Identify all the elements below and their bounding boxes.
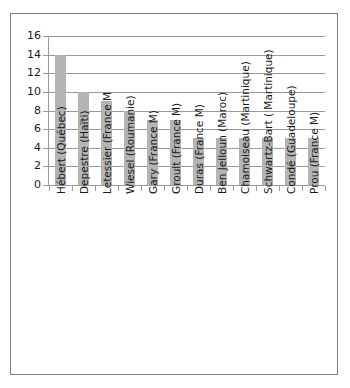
x-axis-tick bbox=[164, 186, 165, 191]
bar-chart-plot-area: 0246810121416Hébert (Québec)Depestre (Ha… bbox=[11, 14, 337, 374]
x-axis-tick bbox=[118, 186, 119, 191]
y-gridline bbox=[49, 55, 325, 56]
x-axis-tick-label: Prou (France M) bbox=[308, 112, 319, 194]
x-axis-tick-label: Letessier (France M bbox=[101, 92, 112, 194]
x-axis-tick bbox=[49, 186, 50, 191]
y-axis-tick-label: 16 bbox=[1, 30, 41, 41]
y-axis-tick-label: 10 bbox=[1, 86, 41, 97]
x-axis-tick bbox=[95, 186, 96, 191]
x-axis-tick bbox=[72, 186, 73, 191]
y-axis-tick-label: 14 bbox=[1, 49, 41, 60]
x-axis-tick-label: Groult (France M) bbox=[170, 103, 181, 194]
y-axis-line bbox=[48, 36, 49, 186]
y-axis-tick-label: 4 bbox=[1, 142, 41, 153]
x-axis-tick-label: Ben Jelloun (Maroc) bbox=[216, 92, 227, 194]
x-axis-tick-label: Wiesel (Roumanie) bbox=[124, 95, 135, 194]
x-axis-tick bbox=[233, 186, 234, 191]
x-axis-tick bbox=[187, 186, 188, 191]
x-axis-tick bbox=[256, 186, 257, 191]
y-axis-tick-label: 0 bbox=[1, 179, 41, 190]
y-gridline bbox=[49, 73, 325, 74]
x-axis-tick bbox=[279, 186, 280, 191]
x-axis-tick bbox=[302, 186, 303, 191]
x-axis-tick-label: Duras (France M) bbox=[193, 104, 204, 194]
x-axis-tick-label: Hébert (Québec) bbox=[55, 106, 66, 194]
x-axis-tick-label: Schwartz-Bart ( Martinique) bbox=[262, 49, 273, 194]
y-axis-tick-label: 12 bbox=[1, 67, 41, 78]
x-axis-tick bbox=[141, 186, 142, 191]
y-axis-tick-label: 6 bbox=[1, 123, 41, 134]
x-axis-tick-label: Gary (France M) bbox=[147, 110, 158, 194]
y-axis-tick-label: 8 bbox=[1, 105, 41, 116]
x-axis-tick-label: Depestre (Haïti) bbox=[78, 110, 89, 194]
x-axis-tick-label: Chamoiseau (Martinique) bbox=[239, 61, 250, 194]
chart-frame: 0246810121416Hébert (Québec)Depestre (Ha… bbox=[10, 13, 338, 375]
x-axis-tick bbox=[210, 186, 211, 191]
y-gridline bbox=[49, 36, 325, 37]
x-axis-tick-label: Condé (Guadeloupe) bbox=[285, 85, 296, 194]
x-axis-tick bbox=[325, 186, 326, 191]
y-axis-tick-label: 2 bbox=[1, 160, 41, 171]
